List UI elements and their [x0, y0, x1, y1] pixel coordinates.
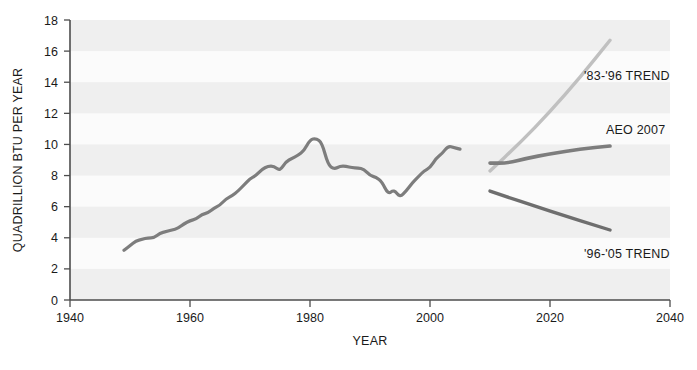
- x-axis-title: YEAR: [353, 334, 388, 348]
- y-tick-label: 6: [51, 200, 58, 214]
- y-tick-label: 18: [44, 14, 58, 28]
- x-tick-label: 1940: [56, 311, 84, 325]
- y-tick-label: 8: [51, 169, 58, 183]
- background-band: [70, 269, 670, 300]
- y-tick-label: 12: [44, 107, 58, 121]
- y-tick-label: 0: [51, 294, 58, 308]
- x-tick-label: 2040: [656, 311, 684, 325]
- aeo-2007-label: AEO 2007: [606, 123, 665, 137]
- x-axis-ticks: 194019601980200020202040: [56, 300, 684, 325]
- x-tick-label: 1980: [296, 311, 324, 325]
- trend-96-05-label: '96-'05 TREND: [584, 247, 670, 261]
- trend-83-96-label: '83-'96 TREND: [584, 69, 670, 83]
- chart-svg: 024681012141618 194019601980200020202040…: [0, 0, 697, 370]
- y-axis-title: QUADRILLION BTU PER YEAR: [11, 68, 25, 252]
- x-tick-label: 2000: [416, 311, 444, 325]
- chart-container: 024681012141618 194019601980200020202040…: [0, 0, 697, 370]
- y-tick-label: 4: [51, 231, 58, 245]
- y-tick-label: 16: [44, 45, 58, 59]
- y-axis-ticks: 024681012141618: [44, 14, 70, 308]
- y-tick-label: 14: [44, 76, 58, 90]
- background-band: [70, 20, 670, 51]
- x-tick-label: 1960: [176, 311, 204, 325]
- y-tick-label: 2: [51, 262, 58, 276]
- y-tick-label: 10: [44, 138, 58, 152]
- background-band: [70, 82, 670, 113]
- x-tick-label: 2020: [536, 311, 564, 325]
